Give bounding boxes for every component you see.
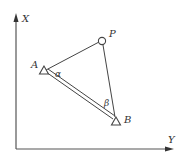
angle-alpha-label: α [55,69,61,79]
diagram-canvas: X Y P A B α β [0,0,186,165]
x-axis-label: X [21,13,30,24]
y-axis-arrow-icon [165,147,174,152]
point-A-triangle-icon [40,66,49,74]
point-A-label: A [30,59,38,70]
point-P-circle-icon [98,37,105,44]
diagram-svg: X Y P A B α β [0,0,186,165]
axes: X Y [14,13,177,152]
y-axis-label: Y [168,134,176,145]
segment-AB-outer [46,72,113,119]
point-B-triangle-icon [112,117,121,125]
point-P-label: P [108,28,116,39]
point-B-label: B [123,114,131,125]
point-labels: P A B α β [30,28,131,125]
x-axis-arrow-icon [14,13,19,22]
angle-beta-label: β [103,98,109,108]
segment-AP [46,42,99,70]
